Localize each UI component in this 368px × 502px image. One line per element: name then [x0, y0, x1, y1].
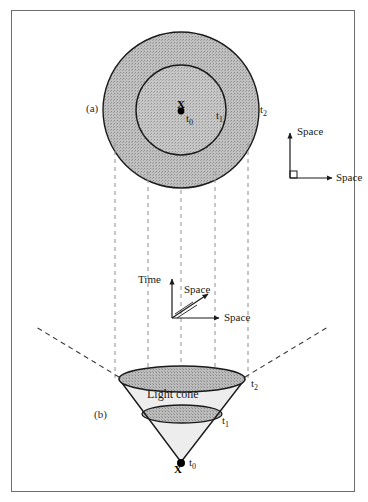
axis-angle-tick-1	[175, 302, 193, 314]
t1-cone-sub: 1	[225, 420, 229, 429]
axis-label-space-horizontal-top: Space	[336, 172, 362, 183]
figure-canvas	[0, 0, 368, 502]
time-label-t2-top: t2	[260, 104, 267, 118]
right-angle-marker	[290, 171, 297, 178]
t0-sub: 0	[189, 118, 193, 127]
axis-label-space-vertical-top: Space	[297, 126, 323, 137]
cone-slice-t1	[142, 405, 222, 423]
time-label-t2-cone: t2	[251, 378, 258, 392]
panel-a-circles	[103, 32, 259, 188]
light-cone-label: Light cone	[147, 388, 199, 400]
event-marker-apex: X	[174, 464, 182, 475]
time-label-t1-cone: t1	[222, 415, 229, 429]
axis-label-time: Time	[138, 274, 161, 285]
t0-cone-sub: 0	[192, 462, 196, 471]
t2-cone-sub: 2	[254, 383, 258, 392]
panel-label-b: (b)	[94, 409, 107, 420]
t2-sub: 2	[263, 109, 267, 118]
axis-angle-tick-2	[177, 305, 197, 318]
time-label-t0-cone: t0	[189, 457, 196, 471]
panel-label-a: (a)	[86, 103, 98, 114]
time-label-t1-top: t1	[216, 110, 223, 124]
axes-legend-top	[290, 133, 332, 178]
axis-space-diagonal	[172, 294, 208, 318]
event-marker-top: X	[177, 99, 185, 110]
light-ray-right	[245, 327, 328, 377]
axis-label-space-horizontal-mid: Space	[224, 312, 250, 323]
time-label-t0-top: t0	[186, 113, 193, 127]
axis-label-space-diagonal: Space	[184, 284, 210, 295]
t1-sub: 1	[219, 115, 223, 124]
light-ray-left	[36, 327, 119, 377]
